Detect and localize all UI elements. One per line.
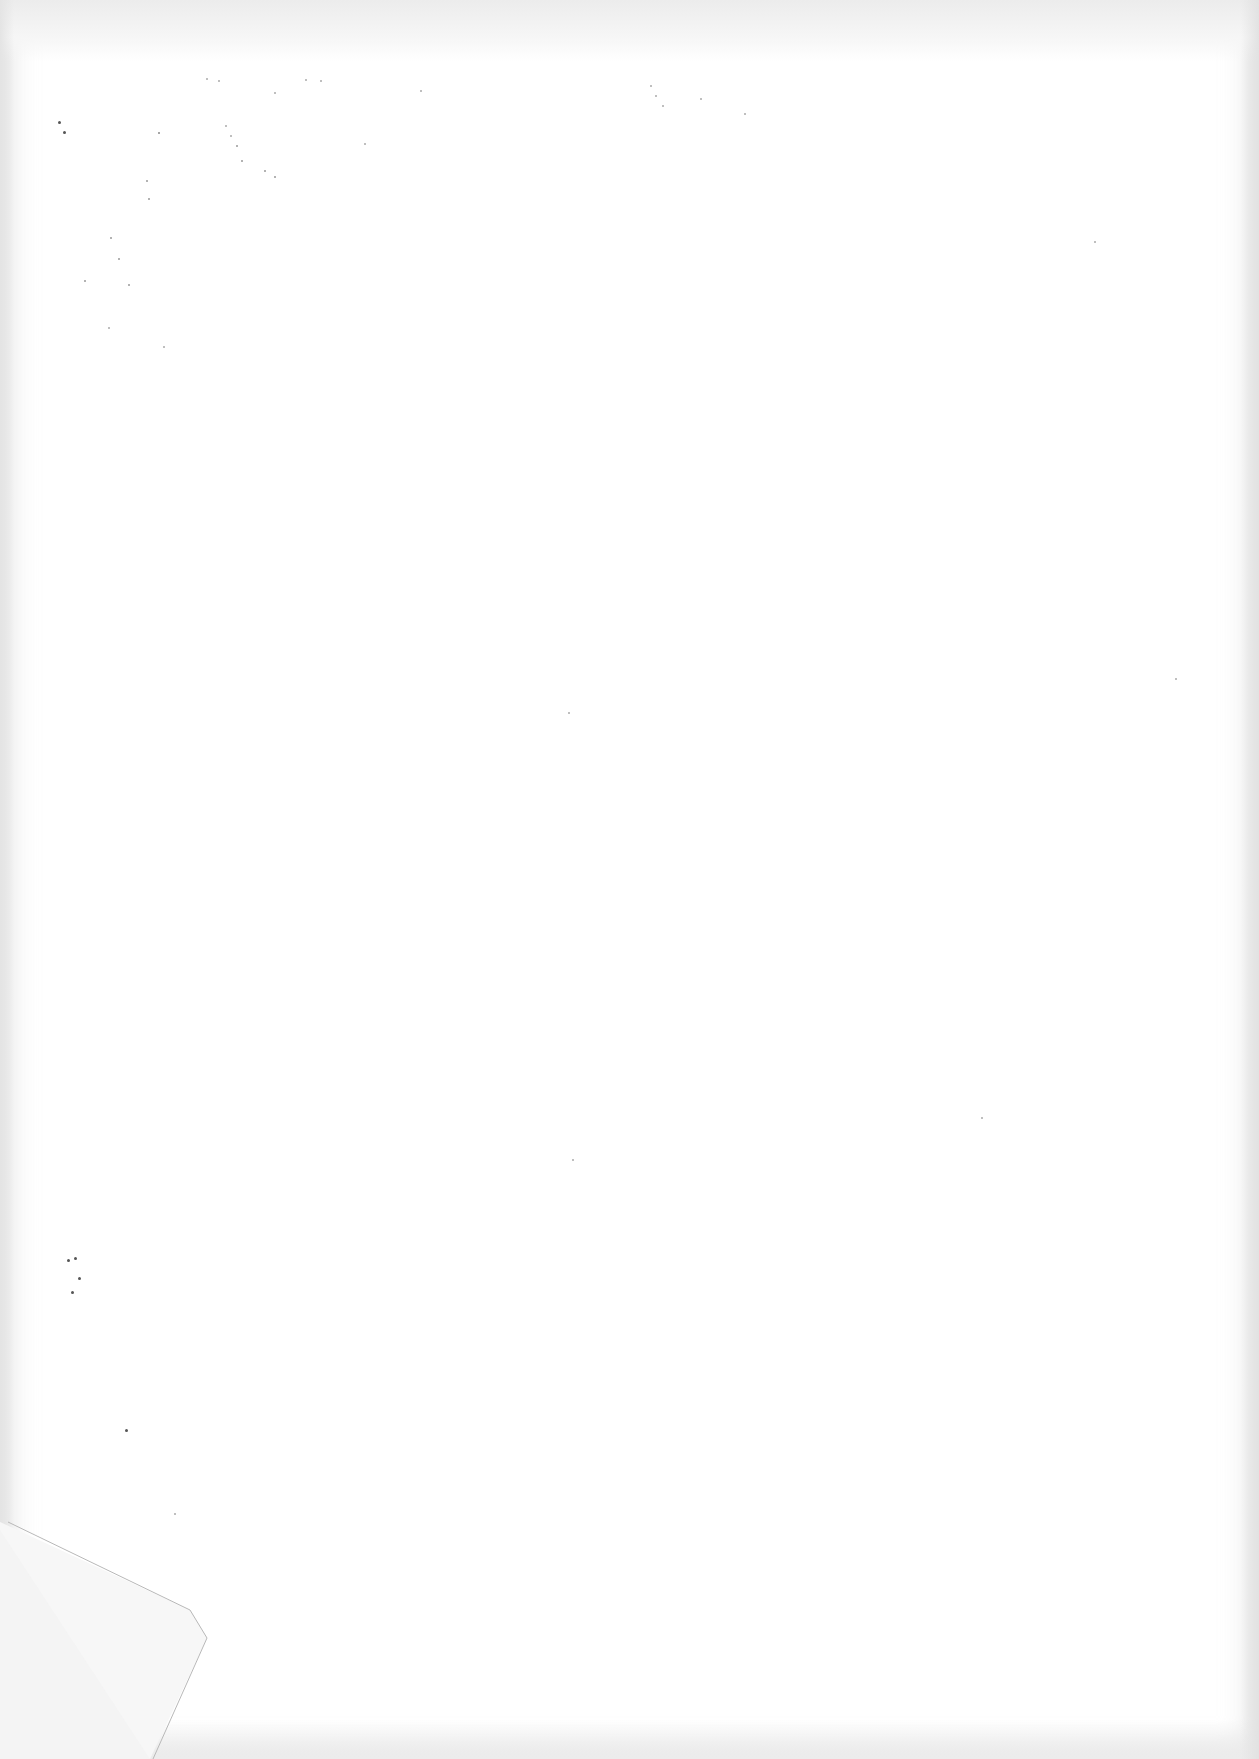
folded-corner [0,0,1259,1759]
blank-scanned-page [0,0,1259,1759]
